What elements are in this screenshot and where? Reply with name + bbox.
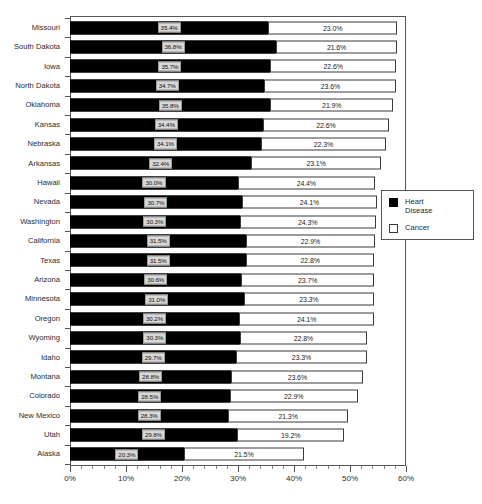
bar-value-label: 22.6%: [314, 120, 337, 129]
x-axis-tick-label: 50%: [342, 474, 358, 483]
x-tick-major: [70, 466, 71, 472]
bar-segment-cancer: 22.8%: [246, 254, 374, 267]
x-tick-minor: [260, 466, 261, 469]
y-axis-label-text: Idaho: [41, 354, 60, 362]
bar-row: 34.7%23.6%: [70, 76, 406, 95]
y-axis-label-text: Alaska: [37, 450, 60, 458]
bar-segment-cancer: 23.1%: [251, 157, 380, 170]
bar-value-label: 29.7%: [142, 352, 165, 362]
bar-row: 28.3%21.3%: [70, 406, 406, 425]
stacked-bar: 31.0%23.3%: [70, 293, 374, 306]
bar-segment-heart-disease: 28.5%: [70, 390, 230, 403]
bar-segment-cancer: 22.9%: [230, 390, 358, 403]
stacked-bar: 34.4%22.6%: [70, 118, 389, 131]
bar-row: 34.4%22.6%: [70, 115, 406, 134]
x-tick-minor: [372, 466, 373, 469]
bar-segment-cancer: 21.6%: [276, 41, 397, 54]
bar-value-label: 28.3%: [138, 410, 161, 420]
x-axis-tick-label: 30%: [230, 474, 246, 483]
bar-value-label: 21.5%: [232, 450, 255, 459]
stacked-bar: 29.7%23.3%: [70, 351, 367, 364]
y-axis-label: Missouri: [0, 18, 66, 37]
bar-segment-heart-disease: 35.4%: [70, 21, 268, 34]
stacked-bar: 30.0%24.4%: [70, 176, 375, 189]
y-axis-label: Colorado: [0, 386, 66, 405]
legend-item[interactable]: Cancer: [389, 223, 465, 233]
bar-row: 30.3%22.8%: [70, 328, 406, 347]
bar-value-label: 23.3%: [290, 353, 313, 362]
bar-segment-heart-disease: 30.0%: [70, 176, 238, 189]
y-axis-label: Oregon: [0, 309, 66, 328]
y-axis-label-text: New Mexico: [19, 412, 60, 420]
y-axis-label: Idaho: [0, 348, 66, 367]
bar-segment-heart-disease: 35.8%: [70, 99, 270, 112]
bar-value-label: 30.3%: [143, 216, 166, 226]
bar-value-label: 31.5%: [147, 236, 170, 246]
bar-segment-cancer: 24.4%: [238, 176, 375, 189]
stacked-bar: 31.5%22.8%: [70, 254, 374, 267]
bar-value-label: 31.5%: [147, 255, 170, 265]
bar-row: 34.1%22.3%: [70, 134, 406, 153]
chart-legend: Heart DiseaseCancer: [381, 190, 474, 240]
bar-segment-heart-disease: 30.6%: [70, 273, 241, 286]
bar-segment-cancer: 21.9%: [270, 99, 393, 112]
x-tick-minor: [328, 466, 329, 469]
bar-segment-heart-disease: 34.4%: [70, 118, 263, 131]
bar-value-label: 28.8%: [139, 372, 162, 382]
bar-row: 29.7%23.3%: [70, 348, 406, 367]
x-axis-tick-label: 0%: [64, 474, 76, 483]
bar-segment-cancer: 22.6%: [270, 60, 397, 73]
bar-value-label: 23.1%: [304, 159, 327, 168]
bar-segment-heart-disease: 36.8%: [70, 41, 276, 54]
y-axis-label: North Dakota: [0, 76, 66, 95]
bar-value-label: 31.0%: [145, 294, 168, 304]
bar-value-label: 30.2%: [143, 313, 166, 323]
legend-swatch-cancer-icon: [389, 224, 398, 233]
bar-value-label: 34.4%: [155, 120, 178, 130]
bar-value-label: 22.3%: [312, 140, 335, 149]
y-axis-label-text: Wyoming: [28, 334, 60, 342]
bar-value-label: 24.1%: [295, 314, 318, 323]
bar-value-label: 30.6%: [144, 275, 167, 285]
bar-segment-heart-disease: 30.3%: [70, 331, 240, 344]
bar-segment-cancer: 19.2%: [237, 428, 345, 441]
y-axis-label-text: Kansas: [35, 121, 60, 129]
bar-value-label: 22.6%: [322, 62, 345, 71]
bar-rows: 35.4%23.0%36.8%21.6%35.7%22.6%34.7%23.6%…: [70, 16, 406, 466]
x-tick-minor: [92, 466, 93, 469]
bar-value-label: 36.8%: [162, 42, 185, 52]
bar-row: 31.5%22.9%: [70, 231, 406, 250]
x-tick-major: [350, 466, 351, 472]
bar-segment-heart-disease: 30.3%: [70, 215, 240, 228]
y-axis-label: California: [0, 231, 66, 250]
legend-item[interactable]: Heart Disease: [389, 197, 465, 216]
bar-segment-heart-disease: 30.2%: [70, 312, 239, 325]
y-axis-label-text: Arkansas: [28, 160, 60, 168]
y-axis-label-text: Montana: [30, 373, 60, 381]
x-tick-minor: [204, 466, 205, 469]
bar-value-label: 22.9%: [282, 392, 305, 401]
bar-value-label: 24.3%: [296, 217, 319, 226]
y-axis-label: Arizona: [0, 270, 66, 289]
x-tick-minor: [339, 466, 340, 469]
x-tick-major: [182, 466, 183, 472]
x-tick-minor: [395, 466, 396, 469]
y-axis-label-text: Texas: [40, 257, 60, 265]
bar-value-label: 34.7%: [156, 81, 179, 91]
bar-value-label: 22.8%: [299, 256, 322, 265]
y-axis-label: Utah: [0, 425, 66, 444]
x-tick-major: [238, 466, 239, 472]
x-tick-minor: [227, 466, 228, 469]
bar-segment-heart-disease: 34.7%: [70, 79, 264, 92]
bar-value-label: 28.5%: [138, 391, 161, 401]
bar-segment-cancer: 21.3%: [228, 409, 347, 422]
y-axis-label: Iowa: [0, 57, 66, 76]
bar-row: 30.6%23.7%: [70, 270, 406, 289]
bar-row: 30.7%24.1%: [70, 193, 406, 212]
y-axis-label: Nebraska: [0, 134, 66, 153]
x-tick-minor: [361, 466, 362, 469]
bar-segment-heart-disease: 31.0%: [70, 293, 244, 306]
y-axis-label: Oklahoma: [0, 96, 66, 115]
y-axis-label: Kansas: [0, 115, 66, 134]
legend-item-label: Heart Disease: [405, 197, 432, 216]
